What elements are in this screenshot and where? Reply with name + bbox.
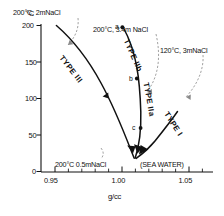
annotation-type1-source: 120°C, 3mNaCl (160, 46, 207, 55)
annotation-type3-source: 200°C, 2mNaCl (13, 8, 60, 17)
y-tick-200: 200 (22, 21, 34, 30)
x-tick-105: 1.05 (179, 176, 193, 185)
y-tick-50: 50 (29, 131, 37, 140)
x-axis-title: g/cc (108, 192, 121, 201)
y-tick-0: 0 (32, 167, 36, 176)
annotation-type2b-source: 200°C, 3.4m NaCl (93, 25, 148, 34)
leader-type1 (186, 55, 203, 97)
point-b-dot (135, 77, 139, 81)
curve-type-iii (56, 26, 134, 159)
point-label-c: c (132, 124, 135, 131)
point-label-b: b (129, 75, 133, 82)
x-tick-100: 1.00 (112, 176, 126, 185)
annotation-sea-water: (SEA WATER) (140, 160, 184, 169)
y-tick-150: 150 (25, 58, 37, 67)
x-tick-095: 0.95 (44, 176, 58, 185)
y-axis (37, 24, 42, 172)
annotation-convergence-source: 200°C 0.5mNaCl (55, 160, 106, 169)
flow-arrowheads (103, 92, 149, 154)
leader-convergence (101, 148, 103, 159)
y-tick-100: 100 (25, 94, 37, 103)
point-label-a: a (115, 23, 119, 30)
density-temperature-chart: 200 150 100 50 0 °C 0.95 1.00 1.05 g/cc … (0, 0, 224, 216)
leader-lines (68, 18, 203, 159)
point-c-dot (139, 126, 143, 130)
